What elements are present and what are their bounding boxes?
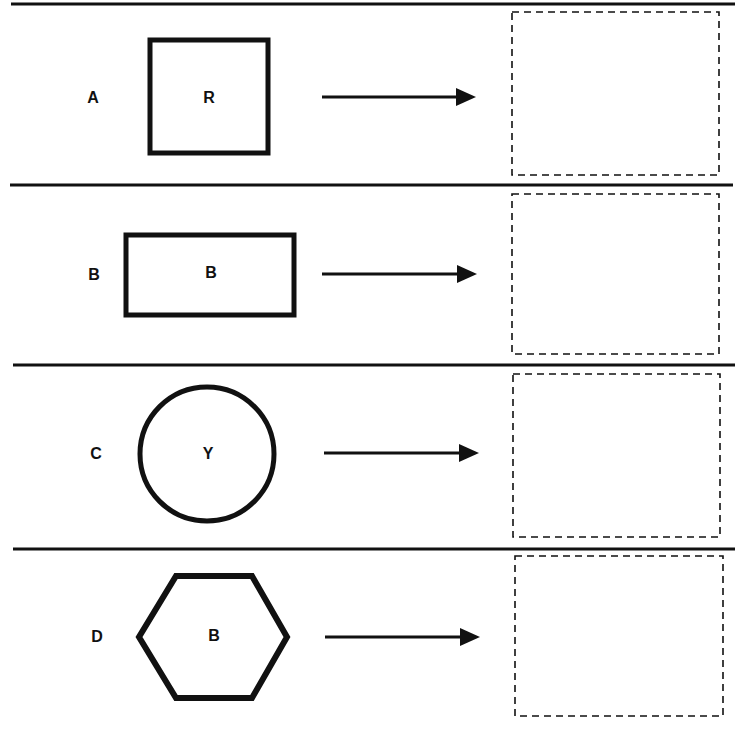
- arrow-icon: [322, 88, 476, 106]
- row-label: A: [87, 89, 99, 106]
- shape-transformation-diagram: A R B B C Y D B: [0, 0, 741, 736]
- answer-box[interactable]: [513, 374, 720, 537]
- row-a: A R: [11, 4, 735, 175]
- shape-letter: Y: [203, 445, 214, 462]
- row-d: D B: [13, 549, 735, 716]
- answer-box[interactable]: [515, 556, 723, 716]
- row-label: D: [91, 628, 103, 645]
- shape-letter: R: [203, 89, 215, 106]
- row-label: B: [88, 266, 100, 283]
- shape-letter: B: [205, 264, 217, 281]
- arrow-icon: [322, 265, 477, 283]
- arrow-icon: [324, 444, 479, 462]
- row-label: C: [90, 445, 102, 462]
- row-b: B B: [10, 185, 733, 354]
- row-c: C Y: [13, 365, 735, 537]
- shape-letter: B: [208, 627, 220, 644]
- answer-box[interactable]: [512, 12, 719, 175]
- arrow-icon: [325, 628, 480, 646]
- answer-box[interactable]: [512, 194, 719, 354]
